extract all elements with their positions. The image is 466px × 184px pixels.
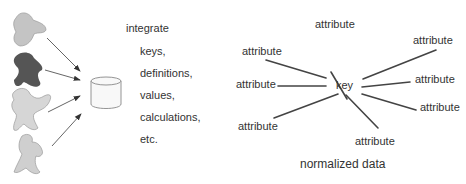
integrate-item-values: values, bbox=[140, 89, 175, 102]
integrate-item-etc: etc. bbox=[140, 133, 158, 146]
integrate-heading: integrate bbox=[126, 22, 169, 35]
integrate-item-keys: keys, bbox=[140, 45, 166, 58]
attribute-node-upper-left: attribute bbox=[242, 45, 282, 58]
normalized-data-caption: normalized data bbox=[300, 158, 385, 171]
attribute-node-upper-right: attribute bbox=[413, 34, 453, 47]
attribute-node-right: attribute bbox=[415, 73, 455, 86]
attribute-node-lower-right: attribute bbox=[420, 101, 460, 114]
attribute-node-lower-left: attribute bbox=[238, 120, 278, 133]
key-node: key bbox=[336, 79, 353, 92]
integrate-item-definitions: definitions, bbox=[140, 67, 193, 80]
integrate-item-calculations: calculations, bbox=[140, 111, 201, 124]
source-blob-2 bbox=[14, 52, 43, 86]
attribute-node-top: attribute bbox=[315, 18, 355, 31]
attribute-node-left: attribute bbox=[236, 78, 276, 91]
database-icon bbox=[91, 77, 121, 109]
source-blob-3 bbox=[12, 88, 51, 130]
diagram-graphics bbox=[0, 0, 466, 184]
attribute-node-bottom: attribute bbox=[355, 135, 395, 148]
source-blob-4 bbox=[14, 134, 43, 173]
source-blob-1 bbox=[14, 13, 46, 46]
